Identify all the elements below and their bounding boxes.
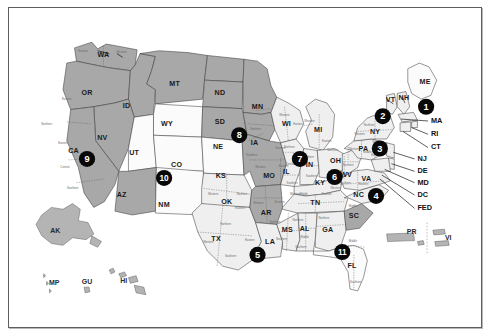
territory-label-pr: PR <box>407 228 417 235</box>
map-marker-2[interactable]: 2 <box>375 108 391 124</box>
state-shape-tx[interactable] <box>192 204 261 270</box>
subregion-label: Western <box>330 186 341 190</box>
state-label-fl: FL <box>347 262 357 269</box>
map-marker-9[interactable]: 9 <box>79 151 95 167</box>
state-label-id: ID <box>123 102 131 109</box>
state-label-az: AZ <box>117 191 127 198</box>
subregion-label: Southern <box>350 280 362 284</box>
subregion-label: Eastern <box>293 122 303 126</box>
state-label-ny: NY <box>370 128 380 135</box>
subregion-label: Northern <box>364 123 375 127</box>
marker-number-2: 2 <box>380 112 385 122</box>
state-label-va: VA <box>362 175 372 182</box>
state-label-wy: WY <box>161 120 173 127</box>
subregion-label: Eastern <box>359 182 369 186</box>
territory-label-hi: HI <box>120 277 127 284</box>
subregion-label: Northern <box>343 163 354 167</box>
subregion-label: Western <box>255 165 266 169</box>
subregion-label: Eastern <box>235 206 245 210</box>
marker-number-4: 4 <box>373 191 379 201</box>
callout-label-ma: MA <box>431 116 443 125</box>
subregion-label: Northern <box>284 145 295 149</box>
state-label-sd: SD <box>215 118 225 125</box>
state-label-ok: OK <box>221 199 233 206</box>
marker-number-1: 1 <box>424 102 429 112</box>
subregion-label: Eastern <box>58 141 68 145</box>
subregion-label: Middle <box>301 236 310 240</box>
callout-label-dc: DC <box>417 190 428 199</box>
state-label-ca: CA <box>68 147 79 154</box>
subregion-label: Eastern <box>78 49 88 53</box>
subregion-label: Southern <box>287 181 299 185</box>
map-marker-8[interactable]: 8 <box>231 127 247 143</box>
state-shape-ct[interactable] <box>400 122 411 131</box>
callout-label-de: DE <box>417 166 427 175</box>
state-label-ne: NE <box>213 143 223 150</box>
state-label-co: CO <box>171 162 182 169</box>
callout-label-ct: CT <box>431 143 441 152</box>
subregion-label: Western <box>304 119 315 123</box>
subregion-label: Northern <box>319 217 330 221</box>
subregion-label: Western <box>253 201 264 205</box>
territory-shape-pr[interactable] <box>387 233 425 245</box>
subregion-label: Western <box>354 132 365 136</box>
marker-number-5: 5 <box>255 250 260 260</box>
subregion-label: Northern <box>41 122 52 126</box>
marker-number-3: 3 <box>377 144 382 154</box>
territory-shape-gu[interactable] <box>84 287 90 293</box>
subregion-label: Northern <box>269 220 280 224</box>
state-shape-nj[interactable] <box>387 143 395 158</box>
state-label-or: OR <box>81 89 92 96</box>
map-marker-10[interactable]: 10 <box>156 170 172 186</box>
state-label-mi: MI <box>314 126 322 133</box>
state-label-tn: TN <box>310 199 320 206</box>
subregion-label: Middle <box>349 204 358 208</box>
subregion-label: Eastern <box>62 97 72 101</box>
state-label-mo: MO <box>263 172 275 179</box>
state-label-ks: KS <box>216 172 226 179</box>
map-marker-4[interactable]: 4 <box>368 188 384 204</box>
state-label-ut: UT <box>129 149 139 156</box>
map-marker-6[interactable]: 6 <box>326 169 342 185</box>
subregion-label: Eastern <box>245 238 255 242</box>
subregion-label: Southern <box>340 181 352 185</box>
callout-label-nj: NJ <box>417 154 426 163</box>
marker-number-10: 10 <box>159 174 169 183</box>
marker-number-11: 11 <box>338 248 347 257</box>
state-label-mn: MN <box>252 103 263 110</box>
state-label-ky: KY <box>315 179 325 186</box>
state-shape-nd[interactable] <box>205 55 244 82</box>
subregion-label: Northern <box>220 222 231 226</box>
state-shape-ma[interactable] <box>398 112 417 121</box>
subregion-label: Northern <box>327 148 338 152</box>
map-marker-7[interactable]: 7 <box>292 151 308 167</box>
state-label-sc: SC <box>349 212 359 219</box>
state-shape-mi[interactable] <box>306 99 335 150</box>
callout-label-fed: FED <box>417 203 432 212</box>
subregion-label: Middle <box>300 192 309 196</box>
state-shape-md[interactable] <box>371 158 390 171</box>
state-label-il: IL <box>283 168 290 175</box>
callout-label-md: MD <box>417 178 428 187</box>
state-label-ia: IA <box>251 139 259 146</box>
state-label-nm: NM <box>158 201 169 208</box>
state-shape-ri[interactable] <box>412 121 418 128</box>
subregion-label: Western <box>208 192 219 196</box>
map-marker-11[interactable]: 11 <box>334 244 350 260</box>
territory-shape-hi[interactable] <box>109 268 146 295</box>
us-map[interactable]: EasternWesternEasternNorthernEasternCent… <box>9 8 481 327</box>
map-marker-3[interactable]: 3 <box>372 141 388 157</box>
subregion-label: Western <box>117 50 128 54</box>
map-marker-1[interactable]: 1 <box>418 99 434 115</box>
state-label-me: ME <box>420 78 431 85</box>
subregion-label: Southern <box>306 174 318 178</box>
state-label-ms: MS <box>282 226 293 233</box>
subregion-label: Eastern <box>322 192 332 196</box>
subregion-label: Middle <box>349 239 358 243</box>
callout-label-ri: RI <box>431 129 438 138</box>
state-label-wi: WI <box>282 120 291 127</box>
state-label-tx: TX <box>211 235 221 242</box>
map-marker-5[interactable]: 5 <box>249 247 265 263</box>
state-label-nv: NV <box>97 134 107 141</box>
territory-shape-ak[interactable] <box>36 204 102 248</box>
